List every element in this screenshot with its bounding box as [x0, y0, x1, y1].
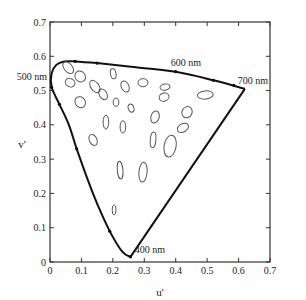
wavelength-marker: [74, 60, 77, 63]
macadam-ellipse: [160, 83, 171, 91]
macadam-ellipse: [162, 134, 178, 158]
y-tick-label: 0.3: [34, 154, 47, 165]
macadam-ellipse: [110, 68, 117, 79]
y-tick-label: 0.1: [34, 222, 47, 233]
macadam-ellipse: [150, 132, 157, 148]
x-tick-label: 0: [48, 265, 53, 276]
y-tick-label: 0.4: [34, 119, 47, 130]
macadam-ellipse: [127, 103, 135, 113]
macadam-ellipse: [138, 79, 148, 87]
macadam-ellipse: [138, 162, 148, 182]
wavelength-label: 500 nm: [17, 71, 48, 82]
macadam-ellipses: [61, 60, 214, 215]
y-tick-label: 0: [41, 257, 46, 268]
wavelength-marker: [75, 147, 78, 150]
spectral-locus-curve: [51, 61, 245, 257]
wavelength-marker: [212, 79, 215, 82]
x-tick-label: 0.7: [264, 265, 277, 276]
wavelength-label: 700 nm: [238, 75, 269, 86]
wavelength-marker: [232, 84, 235, 87]
wavelength-marker: [50, 86, 53, 89]
x-tick-label: 0.4: [169, 265, 182, 276]
wavelength-marker: [96, 62, 99, 65]
macadam-ellipse: [88, 78, 103, 94]
macadam-ellipse: [119, 80, 131, 94]
y-tick-label: 0.5: [34, 85, 47, 96]
macadam-ellipse: [97, 87, 109, 101]
wavelength-label: 600 nm: [171, 57, 202, 68]
wavelength-marker: [174, 70, 177, 73]
x-tick-label: 0.1: [75, 265, 88, 276]
macadam-ellipse: [103, 115, 109, 129]
macadam-ellipse: [176, 121, 190, 134]
macadam-ellipse: [117, 161, 124, 179]
x-axis-label: u': [156, 286, 164, 298]
macadam-ellipse: [120, 121, 126, 133]
macadam-ellipse: [113, 98, 119, 106]
y-tick-label: 0.7: [34, 17, 47, 28]
macadam-ellipse: [112, 205, 116, 215]
spectral-locus: [50, 60, 245, 259]
y-tick-label: 0.6: [34, 51, 47, 62]
wavelength-marker: [129, 255, 132, 258]
chromaticity-chart: 00.10.20.30.40.50.60.700.10.20.30.40.50.…: [0, 0, 306, 300]
purple-line: [130, 89, 244, 257]
x-tick-label: 0.3: [138, 265, 151, 276]
macadam-ellipse: [149, 110, 160, 124]
x-tick-label: 0.2: [107, 265, 120, 276]
wavelength-label: 400 nm: [135, 244, 166, 255]
macadam-ellipse: [158, 92, 170, 103]
macadam-ellipse: [87, 133, 99, 147]
macadam-ellipse: [197, 90, 213, 100]
x-tick-label: 0.5: [201, 265, 214, 276]
y-tick-label: 0.2: [34, 188, 47, 199]
wavelength-marker: [58, 103, 61, 106]
plot-frame: [50, 22, 270, 262]
wavelength-marker: [108, 230, 111, 233]
macadam-ellipse: [64, 77, 77, 89]
x-tick-label: 0.6: [232, 265, 245, 276]
macadam-ellipse: [73, 95, 88, 110]
y-axis-label: v': [18, 138, 26, 150]
macadam-ellipse: [180, 105, 194, 120]
